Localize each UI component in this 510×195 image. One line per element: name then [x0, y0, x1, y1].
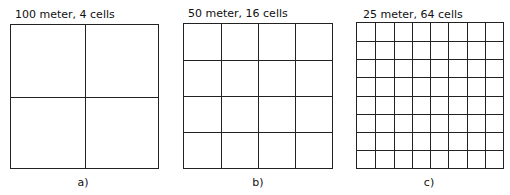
- grid-2x2: [10, 24, 159, 169]
- grid-line-vertical: [295, 24, 296, 168]
- grid-line-horizontal: [184, 96, 332, 97]
- panel-a-caption: a): [63, 176, 103, 189]
- panel-b-caption: b): [238, 176, 278, 189]
- grid-line-vertical: [448, 23, 449, 168]
- grid-line-horizontal: [357, 150, 503, 151]
- panel-c-caption: c): [409, 176, 449, 189]
- grid-8x8: [356, 22, 504, 169]
- panel-c-title: 25 meter, 64 cells: [363, 9, 463, 21]
- panel-a-title: 100 meter, 4 cells: [15, 9, 115, 21]
- grid-line-horizontal: [184, 132, 332, 133]
- grid-line-vertical: [467, 23, 468, 168]
- grid-line-vertical: [485, 23, 486, 168]
- panel-b-title: 50 meter, 16 cells: [188, 8, 288, 20]
- grid-line-horizontal: [357, 96, 503, 97]
- grid-line-horizontal: [357, 132, 503, 133]
- grid-4x4: [183, 23, 333, 169]
- grid-line-horizontal: [357, 114, 503, 115]
- grid-line-horizontal: [11, 97, 158, 98]
